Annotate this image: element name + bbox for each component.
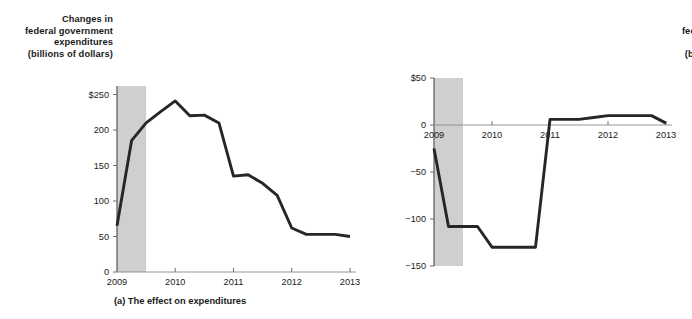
panel-a-caption: (a) The effect on expenditures <box>0 296 360 306</box>
y-tick-label: −150 <box>405 261 426 271</box>
y-tick-label: 0 <box>104 267 109 277</box>
x-tick-label: 2009 <box>107 277 127 287</box>
figure-container: Changes in federal government expenditur… <box>0 0 692 319</box>
recession-shading <box>117 86 146 272</box>
y-tick-label: −100 <box>405 214 426 224</box>
x-tick-label: 2010 <box>482 130 502 140</box>
y-tick-label: −50 <box>410 167 426 177</box>
chart-panel-revenue: Changes in federal government revenue (b… <box>340 0 692 319</box>
x-tick-label: 2012 <box>598 130 618 140</box>
chart-panel-expenditures: Changes in federal government expenditur… <box>0 0 360 319</box>
y-tick-label: 200 <box>94 125 109 135</box>
panel-b-caption: (b) The effect on revenue <box>680 296 692 306</box>
x-tick-label: 2010 <box>165 277 185 287</box>
x-tick-label: 2011 <box>224 277 244 287</box>
y-tick-label: 50 <box>99 232 109 242</box>
y-tick-label: 150 <box>94 161 109 171</box>
y-tick-label: $50 <box>411 73 426 83</box>
y-tick-label: 0 <box>421 120 426 130</box>
x-tick-label: 2012 <box>282 277 302 287</box>
y-tick-label: $250 <box>89 90 109 100</box>
y-tick-label: 100 <box>94 196 109 206</box>
x-tick-label: 2013 <box>656 130 676 140</box>
x-tick-label: 2009 <box>424 130 444 140</box>
data-series-line <box>117 101 350 237</box>
panel-b-plot: −150−100−500$5020092010201120122013 <box>340 0 692 319</box>
panel-a-plot: 050100150200$25020092010201120122013 <box>0 0 360 319</box>
